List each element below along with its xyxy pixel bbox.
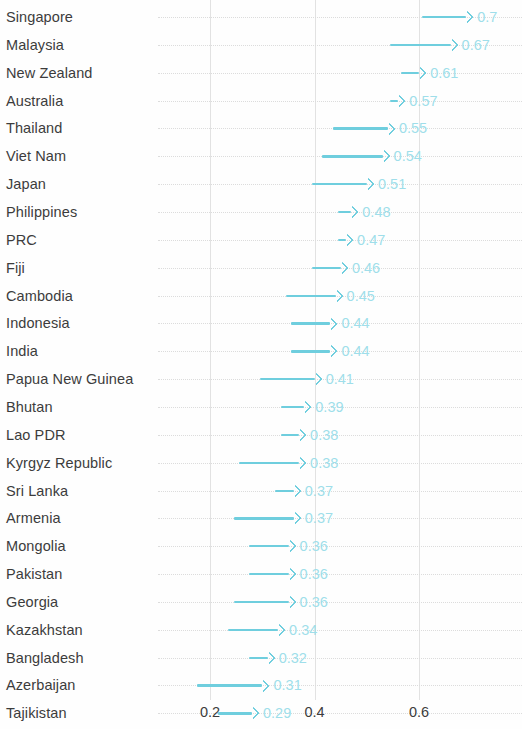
category-label: Viet Nam (6, 143, 66, 169)
category-label: Malaysia (6, 32, 64, 58)
value-label: 0.37 (305, 478, 333, 504)
arrow-head (378, 150, 391, 163)
value-arrow (281, 422, 305, 448)
value-label: 0.39 (315, 394, 343, 420)
value-arrow (322, 143, 387, 169)
value-label: 0.61 (430, 60, 458, 86)
value-label: 0.36 (300, 533, 328, 559)
value-label: 0.44 (341, 338, 369, 364)
value-arrow (260, 366, 320, 392)
arrow-head (299, 401, 312, 414)
arrow-shaft (234, 601, 289, 603)
value-label: 0.36 (300, 561, 328, 587)
arrow-chart: Singapore0.7Malaysia0.67New Zealand0.61A… (0, 0, 522, 729)
value-label: 0.7 (477, 4, 497, 30)
value-arrow (281, 394, 310, 420)
chart-row: Malaysia0.67 (0, 32, 522, 58)
value-label: 0.46 (352, 255, 380, 281)
chart-row: Viet Nam0.54 (0, 143, 522, 169)
arrow-shaft (249, 545, 288, 547)
arrow-head (414, 67, 427, 80)
arrow-head (284, 540, 297, 553)
chart-row: Mongolia0.36 (0, 533, 522, 559)
category-label: Mongolia (6, 533, 66, 559)
arrow-shaft (260, 378, 315, 380)
arrow-head (273, 624, 286, 637)
arrow-head (346, 206, 359, 219)
category-label: Singapore (6, 4, 73, 30)
value-arrow (234, 505, 299, 531)
value-label: 0.41 (326, 366, 354, 392)
arrow-head (326, 317, 339, 330)
chart-row: Armenia0.37 (0, 505, 522, 531)
x-tick-label: 0.6 (409, 704, 429, 720)
x-tick-label: 0.2 (200, 704, 220, 720)
value-label: 0.67 (462, 32, 490, 58)
arrow-shaft (286, 295, 336, 297)
arrow-head (258, 679, 271, 692)
value-label: 0.31 (274, 672, 302, 698)
chart-row: Papua New Guinea0.41 (0, 366, 522, 392)
category-label: Cambodia (6, 283, 73, 309)
category-label: Sri Lanka (6, 478, 68, 504)
arrow-shaft (197, 684, 263, 686)
value-arrow (286, 283, 341, 309)
value-arrow (312, 171, 372, 197)
value-label: 0.36 (300, 589, 328, 615)
value-label: 0.34 (289, 617, 317, 643)
arrow-shaft (239, 462, 299, 464)
category-label: Australia (6, 88, 63, 114)
value-arrow (239, 450, 304, 476)
value-label: 0.51 (378, 171, 406, 197)
arrow-head (446, 39, 459, 52)
x-axis: 0.20.40.6 (158, 700, 522, 729)
arrow-head (461, 11, 474, 24)
category-label: Thailand (6, 115, 62, 141)
category-label: New Zealand (6, 60, 93, 86)
value-arrow (333, 115, 393, 141)
category-label: Tajikistan (6, 700, 67, 726)
arrow-shaft (234, 517, 294, 519)
category-label: Armenia (6, 505, 61, 531)
arrow-head (336, 262, 349, 275)
category-label: Kyrgyz Republic (6, 450, 112, 476)
category-label: Fiji (6, 255, 25, 281)
chart-row: Australia0.57 (0, 88, 522, 114)
arrow-head (383, 122, 396, 135)
chart-row: Thailand0.55 (0, 115, 522, 141)
chart-row: Japan0.51 (0, 171, 522, 197)
chart-row: Azerbaijan0.31 (0, 672, 522, 698)
chart-row: Fiji0.46 (0, 255, 522, 281)
value-arrow (234, 589, 294, 615)
chart-row: Singapore0.7 (0, 4, 522, 30)
value-arrow (249, 561, 293, 587)
value-arrow (228, 617, 283, 643)
value-label: 0.38 (310, 422, 338, 448)
chart-row: Pakistan0.36 (0, 561, 522, 587)
arrow-head (310, 373, 323, 386)
arrow-shaft (228, 629, 278, 631)
arrow-shaft (422, 16, 467, 18)
arrow-head (284, 568, 297, 581)
category-label: Bhutan (6, 394, 53, 420)
arrow-shaft (390, 44, 450, 46)
value-arrow (197, 672, 268, 698)
value-arrow (338, 227, 351, 253)
category-label: Kazakhstan (6, 617, 83, 643)
value-arrow (390, 88, 403, 114)
value-label: 0.37 (305, 505, 333, 531)
value-arrow (338, 199, 356, 225)
chart-row: Lao PDR0.38 (0, 422, 522, 448)
value-arrow (312, 255, 346, 281)
arrow-head (294, 429, 307, 442)
value-label: 0.45 (347, 283, 375, 309)
arrow-head (394, 94, 407, 107)
value-label: 0.38 (310, 450, 338, 476)
category-label: Indonesia (6, 310, 70, 336)
category-label: Bangladesh (6, 645, 84, 671)
category-label: Japan (6, 171, 46, 197)
chart-row: Indonesia0.44 (0, 310, 522, 336)
value-arrow (401, 60, 425, 86)
arrow-head (331, 289, 344, 302)
chart-row: Kazakhstan0.34 (0, 617, 522, 643)
